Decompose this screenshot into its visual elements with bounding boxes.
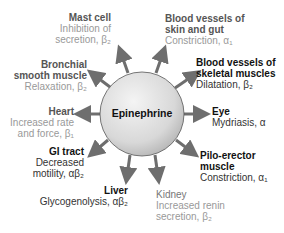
- center-label: Epinephrine: [100, 107, 184, 119]
- label-gi-tract: GI tract Decreased motility, αβ₂: [33, 146, 84, 179]
- arrow-kidney: [155, 155, 158, 176]
- arrow-bv-skin-gut: [156, 53, 163, 73]
- arrow-gi: [94, 140, 108, 152]
- label-liver: Liver Glycogenolysis, αβ₂: [40, 185, 128, 207]
- arrow-bronchial: [94, 75, 110, 87]
- label-kidney: Kidney Increased renin secretion, β₂: [156, 189, 225, 222]
- label-bv-skin-gut: Blood vessels of skin and gut Constricti…: [165, 13, 244, 46]
- arrow-pilo: [176, 140, 192, 152]
- label-bronchial: Bronchial smooth muscle Relaxation, β₂: [14, 59, 87, 92]
- label-mast-cell: Mast cell Inhibition of secretion, β₂: [55, 12, 111, 45]
- label-heart: Heart Increased rate and force, β₁: [10, 106, 74, 139]
- label-bv-skeletal: Blood vessels of skeletal muscles Dilata…: [196, 57, 276, 90]
- label-eye: Eye Mydriasis, α: [212, 106, 266, 128]
- arrow-liver: [127, 155, 130, 176]
- label-pilo-erector: Pilo-erector muscle Constriction, α₁: [200, 150, 268, 183]
- arrow-mast-cell: [121, 53, 128, 73]
- arrow-bv-skeletal: [175, 75, 194, 88]
- epinephrine-diagram: Epinephrine Mast cell Inhibition of secr…: [0, 0, 284, 233]
